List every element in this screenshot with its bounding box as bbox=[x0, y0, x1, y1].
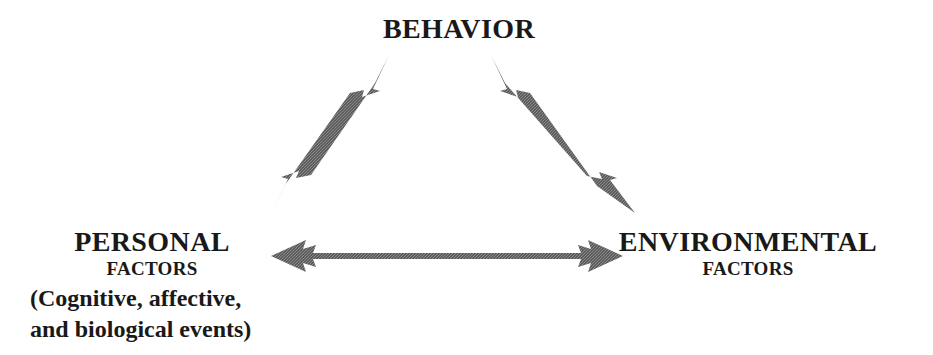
node-behavior: BEHAVIOR bbox=[289, 14, 629, 43]
connector-personal-behavior-arrow bbox=[272, 55, 389, 212]
node-personal-subtitle: FACTORS bbox=[18, 259, 286, 279]
connector-personal-environmental-arrow bbox=[271, 240, 623, 272]
node-behavior-title: BEHAVIOR bbox=[289, 14, 629, 43]
node-personal-detail-line-1: (Cognitive, affective, bbox=[30, 283, 251, 314]
node-environmental: ENVIRONMENTAL FACTORS bbox=[602, 227, 894, 279]
node-environmental-title: ENVIRONMENTAL bbox=[602, 227, 894, 256]
triadic-reciprocal-determinism-diagram: BEHAVIOR PERSONAL FACTORS (Cognitive, af… bbox=[0, 0, 933, 355]
node-personal: PERSONAL FACTORS bbox=[18, 227, 286, 279]
node-personal-detail-line-2: and biological events) bbox=[30, 314, 251, 345]
node-environmental-subtitle: FACTORS bbox=[602, 259, 894, 279]
node-personal-detail: (Cognitive, affective, and biological ev… bbox=[30, 283, 251, 344]
connector-behavior-environmental-arrow bbox=[491, 55, 635, 213]
node-personal-title: PERSONAL bbox=[18, 227, 286, 256]
